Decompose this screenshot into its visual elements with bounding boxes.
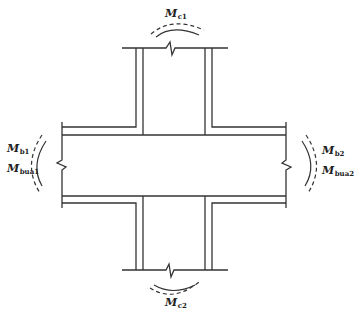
label-mb1: Mb1 <box>7 143 29 155</box>
moment-arcs <box>31 24 316 294</box>
label-mc2: Mc2 <box>165 297 187 309</box>
label-mbua2: Mbua2 <box>322 165 354 177</box>
label-mbua1: Mbua1 <box>7 163 39 175</box>
lower-column <box>62 196 286 277</box>
upper-column <box>62 42 286 135</box>
bottom-moment-arc-dashed <box>150 282 199 294</box>
bottom-moment-arc-solid <box>154 285 195 291</box>
beams <box>57 122 291 208</box>
label-mc1: Mc1 <box>165 8 187 20</box>
label-mb2: Mb2 <box>322 145 344 157</box>
right-moment-arc-solid <box>302 141 311 186</box>
top-moment-arc-solid <box>156 30 199 37</box>
top-moment-arc-dashed <box>151 24 204 34</box>
